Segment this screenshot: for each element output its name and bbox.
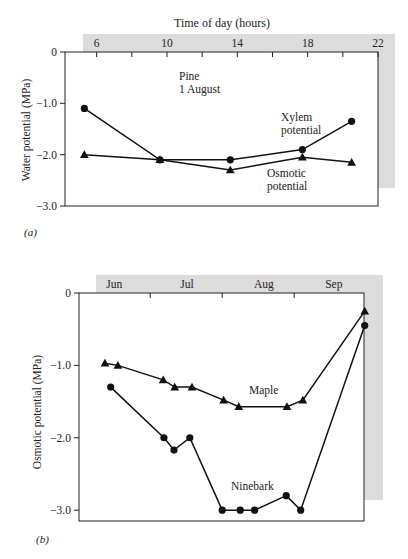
x-tick-label: 18 <box>302 37 314 49</box>
circle-marker <box>251 507 258 514</box>
title-line-2: 1 August <box>179 83 221 96</box>
y-tick-label: −2.0 <box>36 149 57 161</box>
circle-marker <box>186 434 193 441</box>
circle-marker <box>219 507 226 514</box>
circle-marker <box>361 322 368 329</box>
circle-marker <box>107 383 114 390</box>
circle-marker <box>160 434 167 441</box>
x-tick-label: 14 <box>232 37 244 49</box>
x-tick-label: Jun <box>106 278 122 290</box>
title-line-1: Pine <box>179 70 199 82</box>
panel-label-b: (b) <box>36 533 49 546</box>
y-tick-label: 0 <box>51 46 57 58</box>
panel-label-a: (a) <box>24 226 37 239</box>
y-tick-label: −3.0 <box>50 504 71 516</box>
y-ticks: 0−1.0−2.0−3.0 <box>36 46 65 212</box>
y-tick-label: 0 <box>65 287 71 299</box>
label-line: Osmotic <box>267 167 306 179</box>
series-label-maple: Maple <box>249 384 278 397</box>
circle-marker <box>81 105 88 112</box>
x-tick-label: Sep <box>325 278 343 291</box>
y-axis-label: Water potential (MPa) <box>20 79 33 182</box>
circle-marker <box>297 507 304 514</box>
series-label-ninebark: Ninebark <box>231 480 274 492</box>
x-tick-label: Jul <box>180 278 193 290</box>
y-ticks: 0−1.0−2.0−3.0 <box>50 287 79 516</box>
label-line: Xylem <box>281 111 312 124</box>
circle-marker <box>348 118 355 125</box>
circle-marker <box>237 507 244 514</box>
plot-area <box>65 52 378 206</box>
right-shade-band <box>364 275 383 500</box>
chart-panel-a: Time of day (hours) 610141822 0−1.0−2.0−… <box>20 16 395 239</box>
x-tick-label: 22 <box>372 37 384 49</box>
circle-marker <box>283 492 290 499</box>
x-tick-label: 10 <box>161 37 173 49</box>
y-axis-label: Osmotic potential (MPa) <box>31 355 44 470</box>
plot-area <box>79 293 364 521</box>
y-tick-label: −1.0 <box>36 97 57 109</box>
label-line: potential <box>267 180 307 193</box>
right-shade-band <box>378 34 395 188</box>
label-line: potential <box>281 124 321 137</box>
circle-marker <box>227 156 234 163</box>
chart-panel-b: JunJulAugSep 0−1.0−2.0−3.0 Osmotic poten… <box>31 275 383 546</box>
x-tick-label: Aug <box>254 278 274 291</box>
circle-marker <box>170 446 177 453</box>
y-tick-label: −2.0 <box>50 432 71 444</box>
circle-marker <box>299 146 306 153</box>
x-axis-label: Time of day (hours) <box>174 16 270 30</box>
series-label-osmotic: Osmotic potential <box>267 167 309 193</box>
x-tick-label: 6 <box>94 37 100 49</box>
y-tick-label: −1.0 <box>50 359 71 371</box>
figure: Time of day (hours) 610141822 0−1.0−2.0−… <box>0 0 408 559</box>
y-tick-label: −3.0 <box>36 200 57 212</box>
